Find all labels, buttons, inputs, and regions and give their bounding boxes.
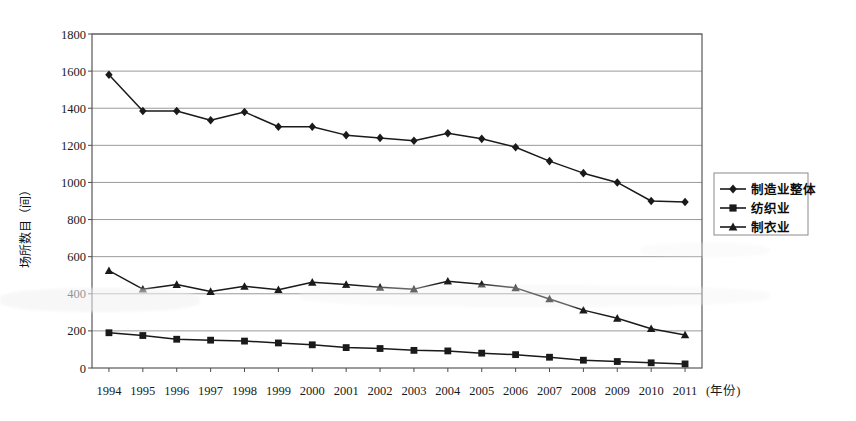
x-axis-tick-label: 2009 xyxy=(605,384,630,398)
y-axis-tick-label: 1600 xyxy=(61,65,86,79)
x-axis-tick-label: 2005 xyxy=(469,384,494,398)
x-axis-tick-label: 2006 xyxy=(503,384,528,398)
chart-container: 180016001400120010008006004002000 199419… xyxy=(0,0,856,421)
x-axis-tick-label: 2002 xyxy=(368,384,393,398)
line-chart: 180016001400120010008006004002000 199419… xyxy=(0,0,856,421)
y-axis-tick-label: 1200 xyxy=(61,139,86,153)
data-point-marker[interactable] xyxy=(343,344,350,351)
x-axis-tick-label: 2003 xyxy=(401,384,426,398)
data-point-marker[interactable] xyxy=(444,348,451,355)
x-axis-tick-label: 1995 xyxy=(130,384,155,398)
x-axis-tick-label: 1994 xyxy=(96,384,122,398)
scan-artifact xyxy=(640,243,770,257)
x-axis-tick-label: 2001 xyxy=(334,384,359,398)
x-axis-tick-label: 1996 xyxy=(164,384,189,398)
data-point-marker[interactable] xyxy=(682,361,689,368)
x-axis-tick-label: 1997 xyxy=(198,384,223,398)
legend-item-label: 制衣业 xyxy=(751,220,790,235)
y-axis-tick-label: 600 xyxy=(67,250,86,264)
x-axis-tick-label: 2008 xyxy=(571,384,596,398)
x-axis-tick-label: 2011 xyxy=(673,384,698,398)
data-point-marker[interactable] xyxy=(139,332,146,339)
scan-artifact xyxy=(300,285,770,307)
chart-legend[interactable]: 制造业整体纺织业制衣业 xyxy=(714,173,816,235)
y-axis-tick-label: 800 xyxy=(67,213,86,227)
data-point-marker[interactable] xyxy=(241,338,248,345)
x-axis-tick-label: 2004 xyxy=(435,384,461,398)
y-axis-tick-label: 200 xyxy=(67,324,86,338)
y-axis-tick-label: 0 xyxy=(80,362,86,376)
x-axis-unit-label: (年份) xyxy=(706,384,740,398)
legend-marker-square-icon xyxy=(729,204,736,211)
x-axis-tick-label: 1999 xyxy=(266,384,291,398)
y-axis-title: 场所数目（间） xyxy=(18,184,33,268)
data-point-marker[interactable] xyxy=(106,329,113,336)
x-axis-tick-label: 2010 xyxy=(639,384,664,398)
data-point-marker[interactable] xyxy=(173,336,180,343)
data-point-marker[interactable] xyxy=(614,358,621,365)
data-point-marker[interactable] xyxy=(512,351,519,358)
data-point-marker[interactable] xyxy=(207,337,214,344)
data-point-marker[interactable] xyxy=(580,357,587,364)
x-axis-tick-label: 2007 xyxy=(537,384,562,398)
y-axis-tick-label: 1800 xyxy=(61,28,86,42)
y-axis-title-label: 场所数目（间） xyxy=(18,184,33,268)
data-point-marker[interactable] xyxy=(377,345,384,352)
y-axis-tick-label: 1400 xyxy=(61,102,86,116)
data-point-marker[interactable] xyxy=(478,350,485,357)
legend-item-label: 制造业整体 xyxy=(751,182,816,197)
data-point-marker[interactable] xyxy=(546,354,553,361)
x-axis-tick-label: 2000 xyxy=(300,384,325,398)
x-axis-tick-label: 1998 xyxy=(232,384,257,398)
data-point-marker[interactable] xyxy=(411,347,418,354)
data-point-marker[interactable] xyxy=(275,340,282,347)
scan-artifact xyxy=(0,288,200,312)
data-point-marker[interactable] xyxy=(648,359,655,366)
data-point-marker[interactable] xyxy=(309,341,316,348)
y-axis-tick-label: 1000 xyxy=(61,176,86,190)
legend-item-label: 纺织业 xyxy=(751,201,790,216)
